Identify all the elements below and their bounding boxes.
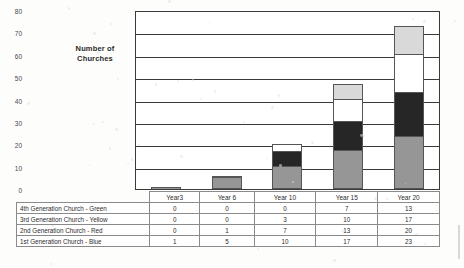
- table-row-label: 3rd Generation Church - Yellow: [17, 214, 150, 225]
- table-row-label: 1st Generation Church - Blue: [17, 236, 150, 247]
- noise-speck: [360, 134, 363, 137]
- stacked-bar: [272, 144, 302, 189]
- bar-slot: [378, 12, 439, 189]
- noise-speck: [341, 230, 343, 232]
- noise-speck: [454, 20, 456, 22]
- noise-speck: [89, 164, 90, 165]
- y-axis-tick-label: 60: [0, 52, 22, 59]
- bar-segment: [334, 85, 362, 100]
- noise-speck: [333, 259, 336, 262]
- table-cell: 20: [378, 225, 440, 236]
- table-row-label: 2nd Generation Church - Red: [17, 225, 150, 236]
- bar-segment: [273, 167, 301, 188]
- noise-speck: [93, 123, 95, 125]
- table-row: 3rd Generation Church - Yellow0031017: [17, 214, 440, 225]
- table-header-cell: Year3: [150, 192, 200, 203]
- noise-speck: [214, 90, 217, 93]
- noise-speck: [155, 83, 158, 86]
- table-corner-cell: [17, 192, 150, 203]
- y-axis-tick-label: 20: [0, 142, 22, 149]
- table-cell: 10: [316, 214, 378, 225]
- table-cell: 0: [200, 214, 254, 225]
- noise-speck: [278, 94, 281, 97]
- noise-speck: [257, 248, 259, 250]
- noise-speck: [279, 164, 282, 167]
- table-cell: 5: [200, 236, 254, 247]
- table-cell: 13: [316, 225, 378, 236]
- table-cell: 0: [150, 203, 200, 214]
- noise-speck: [405, 183, 406, 184]
- bar-slot: [257, 12, 318, 189]
- table-cell: 1: [150, 236, 200, 247]
- bar-segment: [213, 178, 241, 188]
- noise-speck: [286, 132, 287, 133]
- table-cell: 10: [254, 236, 316, 247]
- bar-slot: [318, 12, 379, 189]
- table-cell: 13: [378, 203, 440, 214]
- table-header-cell: Year 15: [316, 192, 378, 203]
- table-cell: 1: [200, 225, 254, 236]
- noise-speck: [243, 121, 245, 123]
- stacked-bar: [394, 26, 424, 189]
- noise-speck: [311, 141, 314, 144]
- noise-speck: [292, 181, 294, 183]
- noise-speck: [27, 102, 30, 105]
- noise-speck: [110, 23, 112, 25]
- table-row-label: 4th Generation Church - Green: [17, 203, 150, 214]
- noise-speck: [63, 176, 64, 177]
- noise-speck: [115, 128, 118, 131]
- noise-speck: [271, 106, 273, 108]
- bar-group: [136, 12, 439, 189]
- plot-area: [135, 11, 440, 190]
- table-cell: 0: [150, 225, 200, 236]
- y-axis-tick-label: 10: [0, 164, 22, 171]
- chart-page: Number of Churches 01020304050607080 Yea…: [0, 0, 464, 268]
- y-axis-tick-label: 80: [0, 8, 22, 15]
- y-axis-tick-label: 40: [0, 97, 22, 104]
- scan-edge-artifact: [458, 225, 460, 259]
- bar-segment: [334, 151, 362, 188]
- noise-speck: [168, 0, 171, 3]
- noise-speck: [412, 18, 413, 19]
- noise-speck: [51, 225, 53, 227]
- table-header-cell: Year 10: [254, 192, 316, 203]
- noise-speck: [374, 197, 377, 200]
- bar-segment: [395, 137, 423, 188]
- bar-segment: [395, 93, 423, 137]
- table-row: 4th Generation Church - Green000713: [17, 203, 440, 214]
- noise-speck: [423, 20, 426, 23]
- noise-speck: [157, 40, 158, 41]
- table-cell: 0: [150, 214, 200, 225]
- noise-speck: [102, 121, 104, 123]
- noise-speck: [86, 160, 88, 162]
- table-cell: 7: [254, 225, 316, 236]
- table-cell: 17: [378, 214, 440, 225]
- bar-segment: [395, 27, 423, 56]
- bar-slot: [197, 12, 258, 189]
- table-cell: 0: [254, 203, 316, 214]
- noise-speck: [105, 132, 107, 134]
- noise-speck: [68, 7, 71, 10]
- table-row: 1st Generation Church - Blue15101723: [17, 236, 440, 247]
- noise-speck: [424, 243, 426, 245]
- bar-segment: [273, 152, 301, 167]
- table-cell: 3: [254, 214, 316, 225]
- noise-speck: [363, 135, 365, 137]
- noise-speck: [131, 158, 134, 161]
- noise-speck: [131, 207, 132, 208]
- noise-speck: [33, 179, 34, 180]
- table-cell: 23: [378, 236, 440, 247]
- noise-speck: [117, 78, 119, 80]
- noise-speck: [50, 263, 52, 265]
- y-axis-tick-label: 70: [0, 30, 22, 37]
- y-axis-title: Number of Churches: [58, 44, 132, 64]
- noise-speck: [386, 198, 389, 201]
- noise-speck: [109, 147, 112, 150]
- bar-segment: [334, 122, 362, 151]
- bar-segment: [395, 55, 423, 93]
- table-cell: 0: [200, 203, 254, 214]
- stacked-bar: [333, 84, 363, 189]
- table-cell: 17: [316, 236, 378, 247]
- y-axis-tick-label: 50: [0, 75, 22, 82]
- bar-slot: [136, 12, 197, 189]
